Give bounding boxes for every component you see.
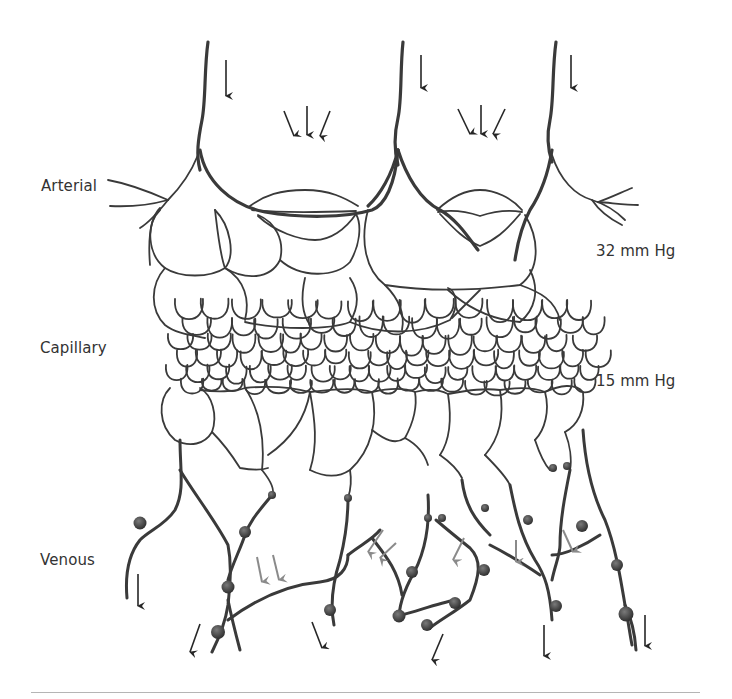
capillary-bed-diagram: Arterial Capillary Venous 32 mm Hg 15 mm… (0, 0, 732, 699)
label-pressure-15: 15 mm Hg (596, 372, 675, 390)
capillary-mesh (166, 299, 611, 396)
label-pressure-32: 32 mm Hg (596, 242, 675, 260)
label-venous: Venous (40, 551, 95, 569)
bottom-divider (31, 692, 700, 693)
venous-lobes (162, 386, 584, 498)
capillary-network (154, 268, 560, 338)
diagram-artwork (0, 0, 732, 699)
label-arterial: Arterial (41, 177, 97, 195)
arterial-vessels (108, 42, 638, 290)
label-capillary: Capillary (40, 339, 107, 357)
venules (126, 430, 636, 652)
inflow-arrows (226, 55, 571, 96)
